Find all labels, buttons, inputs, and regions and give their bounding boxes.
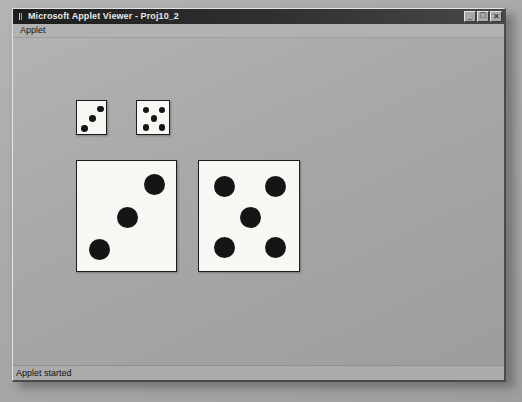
- close-icon: ✕: [491, 12, 501, 21]
- die-pip: [97, 106, 104, 113]
- large-die-right: [198, 160, 300, 272]
- die-pip: [89, 115, 96, 122]
- large-die-left: [76, 160, 177, 272]
- die-pip: [265, 176, 286, 197]
- maximize-button[interactable]: □: [477, 11, 489, 22]
- small-die-left: [76, 100, 107, 135]
- title-bar[interactable]: Microsoft Applet Viewer - Proj10_2 _ □ ✕: [13, 9, 504, 24]
- die-pip: [151, 115, 157, 121]
- window-title: Microsoft Applet Viewer - Proj10_2: [28, 9, 464, 24]
- minimize-icon: _: [465, 11, 475, 20]
- die-pip: [144, 174, 165, 195]
- die-pip: [159, 107, 165, 113]
- die-pip: [143, 107, 149, 113]
- die-pip: [159, 124, 165, 130]
- die-pip: [81, 125, 88, 132]
- die-pip: [265, 237, 286, 258]
- small-die-right: [136, 100, 170, 135]
- applet-viewer-window: Microsoft Applet Viewer - Proj10_2 _ □ ✕…: [12, 8, 506, 382]
- die-pip: [240, 207, 261, 228]
- status-message: Applet started: [16, 366, 72, 380]
- close-button[interactable]: ✕: [490, 11, 502, 22]
- applet-viewer-icon: [16, 12, 25, 21]
- die-pip: [214, 237, 235, 258]
- minimize-button[interactable]: _: [464, 11, 476, 22]
- menu-bar: Applet: [13, 24, 504, 38]
- status-bar: Applet started: [13, 365, 504, 380]
- die-pip: [117, 207, 138, 228]
- maximize-icon: □: [478, 11, 488, 20]
- menu-item-applet[interactable]: Applet: [16, 24, 50, 37]
- applet-canvas: [13, 38, 504, 365]
- die-pip: [89, 239, 110, 260]
- die-pip: [143, 124, 149, 130]
- window-controls: _ □ ✕: [464, 11, 502, 22]
- die-pip: [214, 176, 235, 197]
